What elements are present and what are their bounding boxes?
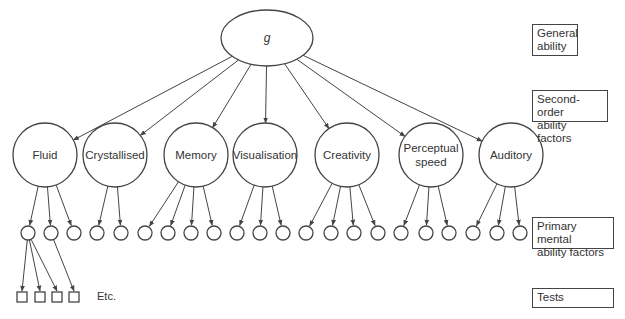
edge-to-primary	[261, 187, 263, 225]
edge-to-test	[54, 240, 74, 291]
factor-label: Crystallised	[85, 149, 144, 161]
level-label-line: ability factors	[537, 246, 609, 259]
factor-label: Fluid	[33, 149, 58, 161]
edge-to-primary	[56, 185, 71, 226]
primary-factor-circle	[230, 226, 244, 240]
test-square	[52, 292, 62, 302]
edge-to-primary	[333, 186, 341, 225]
edge-to-primary	[477, 184, 497, 226]
level-label-line: Second-order	[537, 93, 603, 119]
primary-factor-circle	[442, 226, 456, 240]
level-label-box: Primary mentalability factors	[532, 217, 614, 249]
level-label-line: ability	[537, 40, 573, 53]
primary-factor-circle	[466, 226, 480, 240]
edge-to-primary	[149, 182, 178, 227]
edge-to-primary	[240, 185, 254, 225]
primary-factor-circle	[276, 226, 290, 240]
factor-label: Auditory	[490, 149, 532, 161]
level-label-line: General	[537, 27, 573, 40]
primary-factor-circle	[371, 226, 385, 240]
second-order-node-visualisation: Visualisation	[233, 123, 297, 187]
second-order-node-fluid: Fluid	[13, 123, 77, 187]
primary-factor-nodes	[21, 226, 527, 240]
primary-factor-circle	[394, 226, 408, 240]
edge-to-primary	[47, 187, 50, 225]
edge-to-primary	[404, 185, 420, 226]
level-label-line: Primary mental	[537, 220, 609, 246]
primary-factor-circle	[44, 226, 58, 240]
primary-factor-circle	[513, 226, 527, 240]
second-order-node-perceptual-speed: Perceptualspeed	[399, 123, 463, 187]
primary-factor-circle	[324, 226, 338, 240]
test-square	[69, 292, 79, 302]
primary-factor-circle	[21, 226, 35, 240]
factor-label: Visualisation	[233, 149, 297, 161]
factor-label: Memory	[175, 149, 217, 161]
edge-g-to-memory	[213, 64, 251, 127]
edge-to-primary	[427, 187, 429, 225]
edge-to-primary	[350, 187, 353, 225]
edge-to-primary	[117, 187, 120, 225]
test-nodes: Etc.	[17, 290, 116, 302]
level-label-box: Generalability	[532, 24, 578, 56]
level-label-line: ability factors	[537, 119, 603, 145]
second-order-node-memory: Memory	[164, 123, 228, 187]
edge-to-primary	[498, 186, 505, 225]
primary-factor-circle	[490, 226, 504, 240]
factor-label: Perceptual	[404, 142, 459, 154]
primary-factor-circle	[67, 226, 81, 240]
edge-to-primary	[192, 187, 194, 225]
second-order-node-auditory: Auditory	[479, 123, 543, 187]
etc-label: Etc.	[97, 290, 116, 302]
edge-to-primary	[203, 186, 212, 225]
test-square	[17, 292, 27, 302]
level-label-box: Tests	[532, 288, 614, 308]
factor-label: speed	[415, 156, 446, 168]
edge-to-primary	[515, 187, 519, 225]
level-label-line: Tests	[537, 291, 609, 304]
primary-factor-circle	[114, 226, 128, 240]
test-square	[35, 292, 45, 302]
edge-to-primary	[438, 186, 447, 225]
edge-to-test	[22, 240, 27, 291]
edge-to-primary	[272, 186, 281, 225]
factor-label: Creativity	[323, 149, 371, 161]
primary-factor-circle	[299, 226, 313, 240]
second-order-node-creativity: Creativity	[315, 123, 379, 187]
primary-factor-circle	[138, 226, 152, 240]
edge-to-primary	[30, 186, 38, 225]
edge-to-primary	[310, 183, 332, 226]
primary-factor-circle	[347, 226, 361, 240]
edge-to-primary	[99, 186, 108, 225]
primary-factor-circle	[161, 226, 175, 240]
g-label: g	[264, 31, 271, 45]
factor-circle	[399, 123, 463, 187]
primary-factor-circle	[90, 226, 104, 240]
second-order-node-crystallised: Crystallised	[83, 123, 147, 187]
primary-factor-circle	[207, 226, 221, 240]
edge-g-to-visualisation	[266, 66, 267, 123]
primary-factor-circle	[253, 226, 267, 240]
edge-g-to-creativity	[285, 64, 329, 129]
primary-factor-circle	[419, 226, 433, 240]
general-ability-node: g	[221, 10, 313, 66]
level-label-box: Second-orderability factors	[532, 90, 608, 122]
edge-to-primary	[359, 185, 375, 226]
primary-factor-circle	[184, 226, 198, 240]
